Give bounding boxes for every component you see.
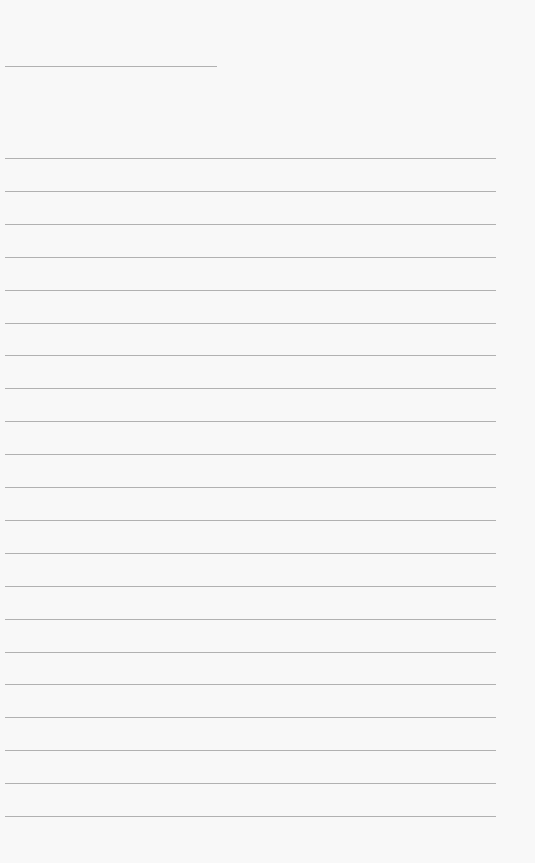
ruled-line [5, 224, 496, 225]
ruled-line [5, 421, 496, 422]
ruled-line [5, 388, 496, 389]
ruled-line [5, 783, 496, 784]
ruled-line [5, 257, 496, 258]
ruled-line [5, 619, 496, 620]
ruled-line [5, 454, 496, 455]
ruled-line [5, 290, 496, 291]
lined-paper [0, 0, 535, 863]
ruled-line [5, 652, 496, 653]
ruled-line [5, 750, 496, 751]
ruled-line [5, 520, 496, 521]
ruled-line [5, 586, 496, 587]
ruled-line [5, 355, 496, 356]
ruled-line [5, 553, 496, 554]
ruled-line [5, 158, 496, 159]
ruled-line [5, 487, 496, 488]
ruled-line [5, 323, 496, 324]
ruled-line [5, 816, 496, 817]
ruled-line [5, 684, 496, 685]
ruled-line [5, 717, 496, 718]
ruled-line [5, 191, 496, 192]
header-line [5, 66, 217, 67]
